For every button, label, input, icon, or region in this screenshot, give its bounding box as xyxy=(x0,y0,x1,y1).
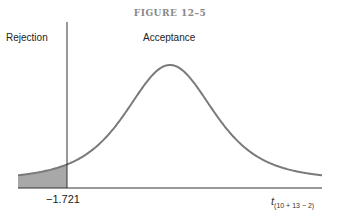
t-distribution-diagram xyxy=(0,0,340,213)
critical-value-label: −1.721 xyxy=(46,193,80,205)
axis-label-subscript: (10 + 13 − 2) xyxy=(274,202,314,209)
t-distribution-curve xyxy=(18,65,322,175)
axis-label: t(10 + 13 − 2) xyxy=(271,195,314,209)
